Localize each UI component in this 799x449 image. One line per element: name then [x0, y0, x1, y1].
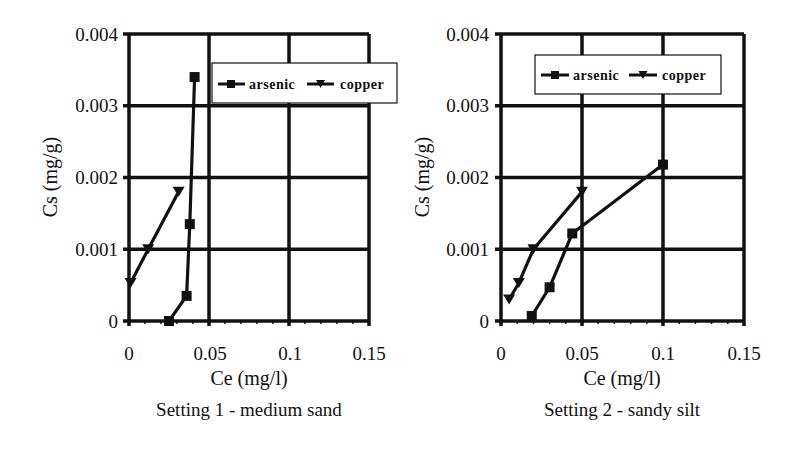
x-tick-label: 0.1 [651, 343, 675, 364]
y-axis-title: Cs (mg/g) [39, 137, 62, 218]
y-tick-labels: 0 0.001 0.002 0.003 0.004 [446, 24, 489, 332]
y-tick-label: 0.002 [75, 167, 118, 188]
x-tick-label: 0.05 [193, 343, 226, 364]
x-axis-title: Ce (mg/l) [583, 367, 660, 390]
legend: arsenic copper [535, 55, 721, 94]
y-tick-labels: 0 0.001 0.002 0.003 0.004 [75, 24, 118, 332]
data-point-arsenic [527, 311, 537, 321]
series-line-arsenic [169, 77, 195, 321]
x-tick-label: 0.1 [278, 343, 302, 364]
data-point-copper [513, 278, 525, 288]
data-point-arsenic [182, 291, 192, 301]
square-marker-icon [227, 80, 235, 88]
data-point-copper [125, 278, 137, 288]
chart-caption: Setting 1 - medium sand [156, 399, 342, 420]
x-tick-label: 0 [496, 343, 506, 364]
data-point-arsenic [658, 160, 668, 170]
legend: arsenic copper [212, 63, 397, 103]
series-line-copper [131, 192, 179, 283]
chart-caption: Setting 2 - sandy silt [544, 399, 701, 420]
data-point-arsenic [545, 282, 555, 292]
y-tick-label: 0.002 [446, 167, 489, 188]
legend-label-arsenic: arsenic [249, 77, 295, 92]
x-axis-title: Ce (mg/l) [210, 367, 287, 390]
data-point-copper [503, 294, 515, 304]
y-tick-label: 0.004 [446, 24, 489, 45]
data-point-arsenic [190, 72, 200, 82]
data-point-copper [173, 187, 185, 197]
data-point-arsenic [164, 316, 174, 326]
data-point-arsenic [567, 228, 577, 238]
x-tick-labels: 0 0.05 0.1 0.15 [124, 343, 385, 364]
y-tick-label: 0.003 [75, 95, 118, 116]
series [503, 160, 668, 321]
y-tick-label: 0.003 [446, 95, 489, 116]
x-tick-labels: 0 0.05 0.1 0.15 [496, 343, 760, 364]
figure: 0 0.001 0.002 0.003 0.004 0 0.05 0.1 0.1… [0, 0, 799, 449]
chart-setting-1: 0 0.001 0.002 0.003 0.004 0 0.05 0.1 0.1… [39, 24, 397, 420]
y-tick-label: 0.001 [446, 239, 489, 260]
y-axis-title: Cs (mg/g) [411, 137, 434, 218]
chart-setting-2: 0 0.001 0.002 0.003 0.004 0 0.05 0.1 0.1… [411, 24, 761, 420]
x-tick-label: 0.15 [352, 343, 385, 364]
y-tick-label: 0 [480, 311, 490, 332]
legend-label-copper: copper [662, 68, 706, 83]
series [125, 72, 200, 326]
x-tick-label: 0 [124, 343, 134, 364]
legend-label-copper: copper [340, 77, 384, 92]
y-tick-label: 0.004 [75, 24, 118, 45]
y-tick-label: 0 [109, 311, 119, 332]
y-tick-label: 0.001 [75, 239, 118, 260]
x-tick-label: 0.05 [565, 343, 598, 364]
series-line-arsenic [532, 165, 663, 316]
x-tick-label: 0.15 [727, 343, 760, 364]
square-marker-icon [551, 71, 559, 79]
legend-label-arsenic: arsenic [573, 68, 619, 83]
data-point-arsenic [185, 219, 195, 229]
